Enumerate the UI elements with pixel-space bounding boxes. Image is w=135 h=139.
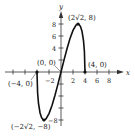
label-left-root: (−4, 0) — [8, 80, 33, 88]
point-maximum — [76, 22, 79, 25]
left-root-leader-line — [31, 73, 36, 80]
chart-svg: x y −2 2 4 6 8 8 6 4 −8 (2√2, 8) (0, 0) … — [0, 0, 135, 139]
y-axis-label: y — [58, 3, 64, 11]
x-axis-arrow-icon — [117, 70, 124, 74]
function-graph: x y −2 2 4 6 8 8 6 4 −8 (2√2, 8) (0, 0) … — [0, 0, 135, 139]
origin-leader-line — [55, 66, 60, 71]
point-right-root — [83, 70, 86, 73]
tick-label-y-4: 4 — [52, 45, 56, 53]
x-axis-label: x — [126, 69, 130, 77]
tick-label-y-8: 8 — [52, 21, 56, 29]
label-right-root: (4, 0) — [88, 61, 107, 69]
tick-label-x--2: −2 — [45, 77, 55, 85]
tick-label-x-6: 6 — [95, 77, 99, 85]
y-axis-arrow-icon — [59, 11, 63, 18]
point-minimum — [42, 118, 45, 121]
x-axis — [5, 70, 121, 75]
tick-label-y-6: 6 — [52, 33, 56, 41]
tick-label-x-4: 4 — [83, 77, 87, 85]
label-minimum: (−2√2, −8) — [11, 123, 51, 131]
tick-label-x-2: 2 — [71, 77, 75, 85]
tick-label-x-8: 8 — [107, 77, 111, 85]
label-maximum: (2√2, 8) — [68, 14, 96, 22]
label-origin: (0, 0) — [37, 59, 56, 67]
